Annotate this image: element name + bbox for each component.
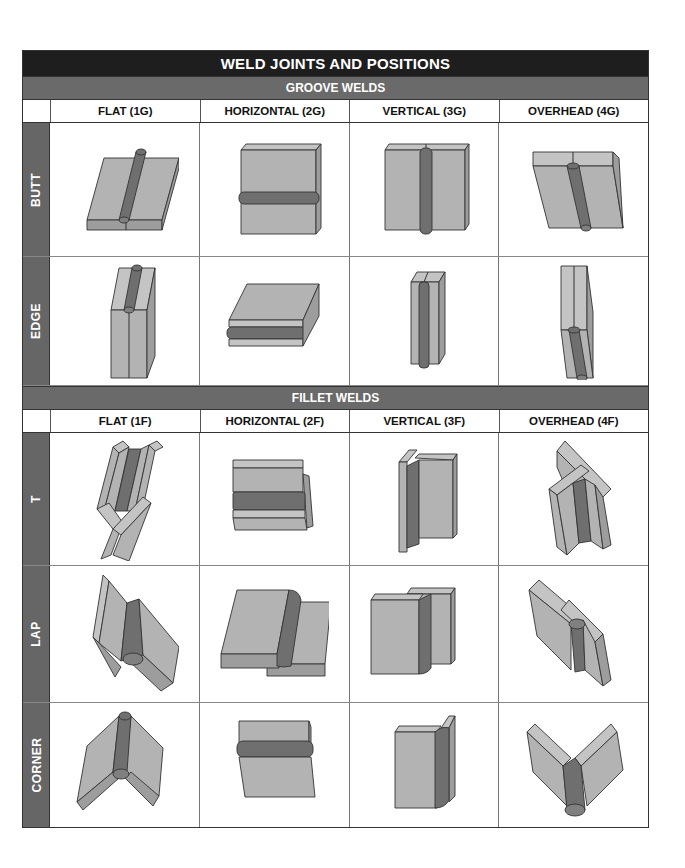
- corner-overhead-4f-illustration: [498, 703, 648, 827]
- edge-horizontal-2g-illustration: [199, 257, 349, 385]
- groove-column-headers: FLAT (1G) HORIZONTAL (2G) VERTICAL (3G) …: [23, 100, 648, 123]
- t-overhead-4f-illustration: [498, 433, 648, 565]
- t-vertical-3f-illustration: [349, 433, 499, 565]
- col-header-overhead-4g: OVERHEAD (4G): [499, 100, 649, 122]
- row-butt: BUTT: [23, 123, 648, 257]
- butt-flat-1g-illustration: [50, 123, 199, 256]
- row-label-butt: BUTT: [23, 123, 50, 256]
- col-header-vertical-3g: VERTICAL (3G): [349, 100, 499, 122]
- t-flat-1f-illustration: [50, 433, 199, 565]
- corner-horizontal-2f-illustration: [199, 703, 349, 827]
- table-title: WELD JOINTS AND POSITIONS: [23, 51, 648, 76]
- edge-overhead-4g-illustration: [498, 257, 648, 385]
- weld-joints-table: WELD JOINTS AND POSITIONS GROOVE WELDS F…: [22, 50, 649, 828]
- butt-overhead-4g-illustration: [498, 123, 648, 256]
- groove-welds-header: GROOVE WELDS: [23, 76, 648, 100]
- edge-flat-1g-illustration: [50, 257, 199, 385]
- lap-overhead-4f-illustration: [498, 566, 648, 702]
- lap-horizontal-2f-illustration: [199, 566, 349, 702]
- edge-vertical-3g-illustration: [349, 257, 499, 385]
- row-label-t: T: [23, 433, 50, 565]
- t-horizontal-2f-illustration: [199, 433, 349, 565]
- col-header-flat-1g: FLAT (1G): [50, 100, 200, 122]
- row-lap: LAP: [23, 566, 648, 703]
- fillet-welds-header: FILLET WELDS: [23, 386, 648, 410]
- corner-flat-1f-illustration: [50, 703, 199, 827]
- corner-vertical-3f-illustration: [349, 703, 499, 827]
- row-t: T: [23, 433, 648, 566]
- row-label-corner: CORNER: [23, 703, 50, 827]
- lap-vertical-3f-illustration: [349, 566, 499, 702]
- row-label-lap: LAP: [23, 566, 50, 702]
- fillet-column-headers: FLAT (1F) HORIZONTAL (2F) VERTICAL (3F) …: [23, 410, 648, 433]
- col-header-horizontal-2g: HORIZONTAL (2G): [200, 100, 350, 122]
- row-label-edge: EDGE: [23, 257, 50, 385]
- row-edge: EDGE: [23, 257, 648, 386]
- butt-horizontal-2g-illustration: [199, 123, 349, 256]
- col-header-flat-1f: FLAT (1F): [50, 410, 200, 432]
- col-header-overhead-4f: OVERHEAD (4F): [499, 410, 649, 432]
- lap-flat-1f-illustration: [50, 566, 199, 702]
- row-corner: CORNER: [23, 703, 648, 827]
- col-header-horizontal-2f: HORIZONTAL (2F): [200, 410, 350, 432]
- col-header-vertical-3f: VERTICAL (3F): [349, 410, 499, 432]
- butt-vertical-3g-illustration: [349, 123, 499, 256]
